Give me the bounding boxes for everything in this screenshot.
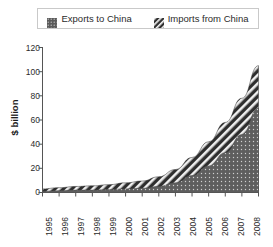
y-axis-ticks — [39, 48, 43, 193]
plot-area — [0, 0, 273, 247]
chart-container: Exports to China Imports from China $ bi… — [0, 0, 273, 247]
x-axis-ticks — [43, 193, 259, 197]
